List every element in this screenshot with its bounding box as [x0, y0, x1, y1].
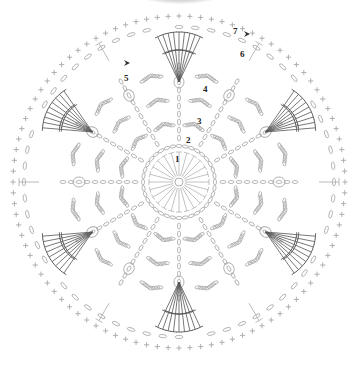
- start-arrow-left-icon: [124, 60, 130, 66]
- bobble-stitch: [73, 177, 85, 187]
- chain-stitch: [182, 215, 188, 219]
- chain-stitch: [34, 241, 40, 250]
- chain-stitch: [158, 148, 165, 154]
- chain-stitch: [310, 100, 317, 109]
- chain-stitch: [110, 217, 117, 223]
- chain-stitch: [124, 209, 131, 215]
- single-crochet-stitch: [219, 19, 224, 24]
- single-crochet-stitch: [337, 222, 342, 227]
- chain-stitch: [206, 231, 212, 238]
- chain-stitch: [143, 166, 148, 173]
- chain-stitch: [210, 166, 215, 173]
- chain-stitch: [244, 181, 250, 184]
- crochet-chart: [0, 0, 359, 365]
- chain-stitch: [238, 321, 247, 327]
- chain-stitch: [178, 127, 181, 133]
- single-crochet-stitch: [103, 328, 108, 333]
- single-crochet-stitch: [52, 289, 57, 294]
- chain-stitch: [228, 149, 235, 155]
- chain-stitch: [236, 181, 242, 184]
- chain-stitch: [145, 197, 151, 204]
- single-crochet-stitch: [16, 136, 21, 141]
- chain-stitch: [25, 146, 30, 154]
- chain-stitch: [182, 145, 188, 149]
- chain-stitch: [146, 231, 152, 238]
- single-crochet-stitch: [198, 15, 203, 20]
- single-crochet-stitch: [339, 147, 344, 152]
- single-crochet-stitch: [334, 126, 339, 131]
- chain-stitch: [318, 115, 324, 124]
- chain-stitch: [210, 238, 216, 245]
- chain-stitch: [324, 130, 330, 139]
- round-label-7: 7: [233, 26, 238, 36]
- chain-stitch: [214, 179, 217, 185]
- single-crochet-stitch: [325, 253, 330, 258]
- single-crochet-stitch: [14, 147, 19, 152]
- chain-stitch: [210, 120, 216, 127]
- chain-stitch: [218, 251, 224, 258]
- chain-stitch: [235, 213, 242, 219]
- chain-stitch: [221, 205, 228, 211]
- single-crochet-stitch: [14, 212, 19, 217]
- chain-stitch: [124, 149, 131, 155]
- single-crochet-stitch: [286, 55, 291, 60]
- chain-stitch: [159, 334, 167, 338]
- chain-stitch: [176, 145, 182, 148]
- single-crochet-stitch: [133, 19, 138, 24]
- chain-stitch: [214, 157, 221, 163]
- bobble-stitch: [273, 177, 285, 187]
- chain-stitch: [118, 78, 124, 85]
- single-crochet-stitch: [23, 243, 28, 248]
- single-crochet-stitch: [16, 222, 21, 227]
- chain-stitch: [103, 221, 110, 227]
- chain-stitch: [292, 181, 298, 184]
- chain-stitch: [143, 191, 148, 198]
- single-crochet-stitch: [28, 106, 33, 111]
- round-label-5: 5: [124, 73, 129, 83]
- chain-stitch: [248, 221, 255, 227]
- chain-stitch: [241, 141, 248, 147]
- chain-stitch: [226, 92, 232, 99]
- chain-stitch: [124, 181, 130, 184]
- chain-stitch: [142, 179, 145, 185]
- single-crochet-stitch: [45, 78, 50, 83]
- chain-stitch: [207, 28, 215, 33]
- chain-stitch: [328, 210, 333, 218]
- single-crochet-stitch: [166, 14, 171, 19]
- chain-stitch: [178, 255, 181, 261]
- single-crochet-stitch: [337, 136, 342, 141]
- chain-stitch: [178, 231, 181, 237]
- single-crochet-stitch: [23, 116, 28, 121]
- chain-stitch: [276, 181, 282, 184]
- single-crochet-stitch: [59, 62, 64, 67]
- round-label-6: 6: [240, 49, 245, 59]
- single-crochet-stitch: [11, 190, 16, 195]
- chain-stitch: [146, 127, 152, 134]
- single-crochet-stitch: [250, 31, 255, 36]
- chain-stitch: [266, 53, 274, 60]
- chain-stitch: [331, 194, 335, 202]
- chain-stitch: [23, 194, 27, 202]
- single-crochet-stitch: [259, 36, 264, 41]
- single-crochet-stitch: [93, 36, 98, 41]
- chain-stitch: [331, 162, 335, 170]
- chain-stitch: [50, 87, 57, 95]
- single-crochet-stitch: [123, 337, 128, 342]
- chain-stitch: [142, 185, 146, 191]
- chain-stitch: [234, 279, 240, 286]
- single-crochet-stitch: [277, 48, 282, 53]
- chain-stitch: [29, 226, 35, 235]
- single-crochet-stitch: [52, 70, 57, 75]
- single-crochet-stitch: [133, 340, 138, 345]
- single-crochet-stitch: [341, 158, 346, 163]
- single-crochet-stitch: [301, 289, 306, 294]
- chain-stitch: [142, 238, 148, 245]
- chain-stitch: [138, 244, 144, 251]
- chain-stitch: [100, 181, 106, 184]
- chain-stitch: [142, 173, 146, 179]
- single-crochet-stitch: [286, 304, 291, 309]
- chain-stitch: [175, 25, 183, 28]
- single-crochet-stitch: [308, 280, 313, 285]
- chain-stitch: [127, 32, 136, 38]
- chain-stitch: [131, 153, 138, 159]
